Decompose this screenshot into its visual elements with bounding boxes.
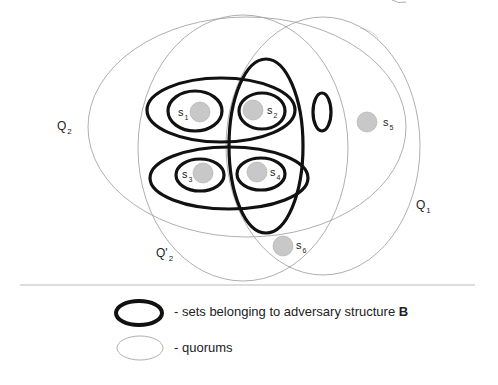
server-node-s2: [243, 100, 263, 120]
server-node-s3: [193, 163, 213, 183]
legend-quorum-label: - quorums: [174, 340, 233, 355]
server-node-s5: [357, 112, 377, 132]
quorum-label-Q'2: Q'2: [156, 246, 174, 263]
legend-adversary-swatch: [116, 301, 162, 325]
server-node-s1: [190, 102, 210, 122]
server-label-s5: s5: [383, 116, 394, 131]
server-label-s1: s1: [178, 106, 189, 121]
legend-adversary-entry: - sets belonging to adversary structure …: [174, 304, 408, 319]
quorum-label-Q2: Q2: [57, 119, 72, 136]
legend-quorum-entry: - quorums: [174, 340, 233, 355]
legend-quorum-swatch: [117, 336, 163, 360]
server-label-s3: s3: [182, 168, 193, 183]
server-node-s6: [273, 236, 293, 256]
quorum-ellipse-Q1: [226, 17, 420, 275]
server-label-s4: s4: [270, 166, 281, 181]
partial-arc-fragment-2: [360, 28, 378, 38]
server-label-s2: s2: [267, 104, 278, 119]
legend-adversary-bold: B: [399, 304, 408, 319]
adversary-set-group: [147, 59, 331, 233]
adversary-set-B-empty: [313, 93, 331, 131]
partial-arc-fragment: [392, 0, 406, 3]
server-label-s6: s6: [296, 239, 307, 254]
legend-adversary-label: - sets belonging to adversary structure: [174, 304, 399, 319]
quorum-label-Q1: Q1: [416, 198, 431, 215]
server-node-s4: [247, 162, 267, 182]
quorum-diagram: s1s2s3s4s5s6Q2Q'2Q1: [0, 0, 498, 385]
